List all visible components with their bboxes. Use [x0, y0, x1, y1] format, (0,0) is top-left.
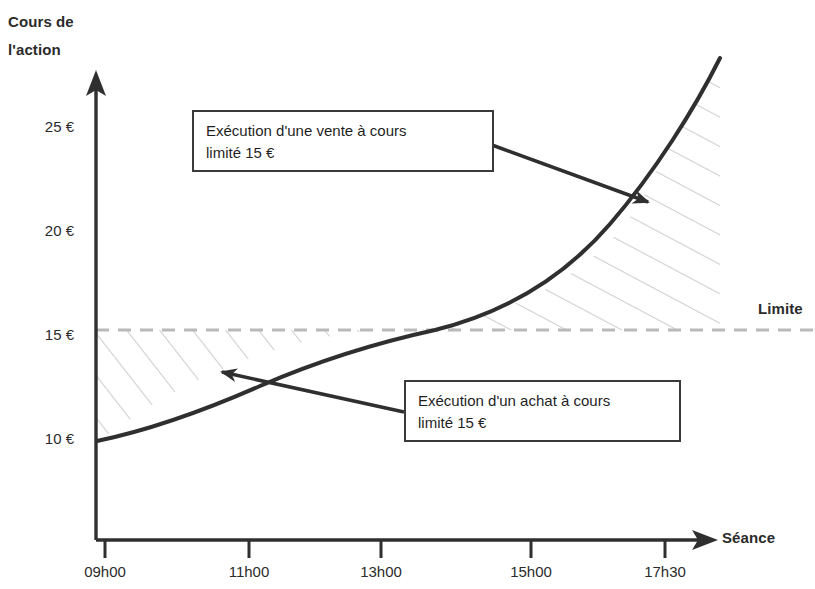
annotation-box-achat: Exécution d'un achat à cours limité 15 €: [404, 380, 681, 442]
y-tick-label-20: 20 €: [12, 222, 74, 239]
limit-label: Limite: [758, 300, 803, 317]
region-achat-hatch: [80, 310, 460, 460]
y-axis-title-line2: l'action: [8, 36, 74, 64]
y-axis-title: Cours de l'action: [8, 8, 74, 64]
x-tick-label-09h00: 09h00: [60, 563, 150, 580]
x-tick-label-13h00: 13h00: [336, 563, 426, 580]
x-axis-ticks: [105, 540, 665, 558]
x-tick-label-15h00: 15h00: [486, 563, 576, 580]
annotation-vente-line1: Exécution d'une vente à cours: [206, 120, 482, 142]
y-tick-label-15: 15 €: [12, 326, 74, 343]
y-tick-label-10: 10 €: [12, 430, 74, 447]
y-axis-title-line1: Cours de: [8, 8, 74, 36]
region-vente-hatch: [400, 40, 780, 350]
chart-canvas: Cours de l'action Séance Limite 25 € 20 …: [0, 0, 815, 589]
y-tick-label-25: 25 €: [12, 118, 74, 135]
annotation-box-vente: Exécution d'une vente à cours limité 15 …: [192, 110, 494, 172]
x-tick-label-11h00: 11h00: [204, 563, 294, 580]
annotation-achat-line1: Exécution d'un achat à cours: [418, 390, 669, 412]
annotation-arrow-vente: [492, 145, 648, 202]
x-tick-label-17h30: 17h30: [620, 563, 710, 580]
annotation-achat-line2: limité 15 €: [418, 412, 669, 434]
annotation-vente-line2: limité 15 €: [206, 142, 482, 164]
chart-plot: [0, 0, 815, 589]
x-axis-title: Séance: [722, 529, 775, 546]
